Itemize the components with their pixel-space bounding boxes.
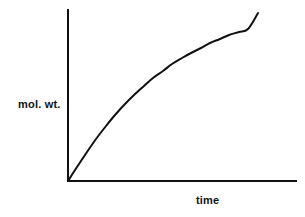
x-axis-label: time: [196, 195, 219, 206]
y-axis-label: mol. wt.: [18, 99, 61, 110]
axes-group: [68, 10, 296, 181]
data-series-group: [68, 13, 258, 181]
data-curve-mol-wt: [68, 13, 258, 181]
molecular-weight-vs-time-chart: mol. wt. time: [0, 0, 305, 217]
